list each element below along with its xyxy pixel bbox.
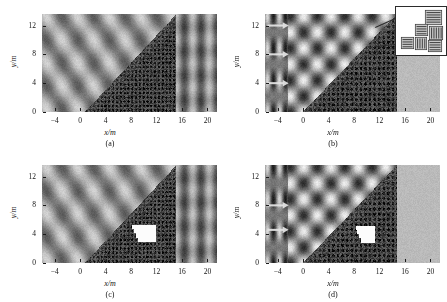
y-tick-label: 8	[241, 200, 259, 209]
x-tick-label: −4	[266, 267, 290, 276]
x-tick-mark	[182, 108, 183, 111]
x-tick-label: −4	[43, 267, 67, 276]
panel-b-magnified-inset	[395, 6, 447, 56]
y-tick-mark	[266, 205, 269, 206]
x-tick-mark	[278, 108, 279, 111]
x-tick-mark	[106, 108, 107, 111]
x-tick-mark	[380, 259, 381, 262]
x-tick-label: 16	[393, 267, 417, 276]
y-tick-label: 12	[18, 21, 36, 30]
panel-b-y-axis-label: y/m	[232, 48, 241, 76]
x-tick-label: 8	[119, 116, 143, 125]
y-tick-mark	[43, 83, 46, 84]
x-tick-mark	[303, 259, 304, 262]
x-tick-label: 0	[291, 267, 315, 276]
panel-c-x-axis-label: x/m	[92, 279, 128, 288]
x-tick-mark	[278, 259, 279, 262]
x-tick-mark	[80, 259, 81, 262]
x-tick-mark	[354, 259, 355, 262]
panel-b-caption: (b)	[315, 139, 351, 148]
x-tick-mark	[430, 108, 431, 111]
x-tick-label: −4	[266, 116, 290, 125]
panel-a-x-axis-label: x/m	[92, 128, 128, 137]
figure-container: y/m x/m (a) 04812−4048121620 y/m x/m (b)…	[0, 0, 447, 302]
y-tick-mark	[266, 26, 269, 27]
x-tick-label: −4	[43, 116, 67, 125]
x-tick-mark	[207, 259, 208, 262]
panel-a-y-axis-label: y/m	[9, 48, 18, 76]
y-tick-label: 4	[18, 229, 36, 238]
y-tick-label: 4	[241, 229, 259, 238]
panel-d-plot-area	[265, 165, 440, 263]
y-tick-label: 4	[241, 78, 259, 87]
y-tick-label: 12	[18, 172, 36, 181]
y-tick-mark	[43, 54, 46, 55]
y-tick-mark	[43, 205, 46, 206]
x-tick-label: 16	[393, 116, 417, 125]
x-tick-mark	[157, 108, 158, 111]
x-tick-label: 4	[94, 116, 118, 125]
y-tick-mark	[43, 26, 46, 27]
x-tick-mark	[354, 108, 355, 111]
x-tick-mark	[55, 108, 56, 111]
y-tick-label: 12	[241, 172, 259, 181]
panel-d-x-axis-label: x/m	[315, 279, 351, 288]
y-tick-mark	[43, 234, 46, 235]
panel-b: y/m x/m (b) 04812−4048121620	[223, 0, 447, 151]
y-tick-mark	[266, 263, 269, 264]
y-tick-label: 8	[241, 49, 259, 58]
x-tick-label: 12	[145, 116, 169, 125]
y-tick-mark	[266, 234, 269, 235]
panel-a-plot-area	[42, 14, 217, 112]
y-tick-mark	[43, 112, 46, 113]
panel-c-y-axis-label: y/m	[9, 199, 18, 227]
x-tick-label: 8	[119, 267, 143, 276]
x-tick-label: 20	[195, 267, 219, 276]
x-tick-label: 8	[342, 116, 366, 125]
x-tick-label: 4	[317, 116, 341, 125]
x-tick-label: 16	[170, 267, 194, 276]
y-tick-mark	[266, 177, 269, 178]
x-tick-mark	[182, 259, 183, 262]
y-tick-mark	[266, 112, 269, 113]
x-tick-label: 20	[418, 116, 442, 125]
panel-c-caption: (c)	[92, 290, 128, 299]
x-tick-mark	[207, 108, 208, 111]
panel-c: y/m x/m (c) 04812−4048121620	[0, 151, 223, 302]
y-tick-mark	[43, 177, 46, 178]
x-tick-mark	[303, 108, 304, 111]
x-tick-label: 12	[368, 267, 392, 276]
y-tick-label: 0	[18, 107, 36, 116]
x-tick-label: 12	[368, 116, 392, 125]
y-tick-label: 0	[241, 258, 259, 267]
x-tick-label: 4	[317, 267, 341, 276]
x-tick-mark	[329, 259, 330, 262]
x-tick-label: 0	[68, 116, 92, 125]
x-tick-mark	[106, 259, 107, 262]
x-tick-label: 20	[418, 267, 442, 276]
panel-a: y/m x/m (a) 04812−4048121620	[0, 0, 223, 151]
y-tick-label: 0	[241, 107, 259, 116]
y-tick-mark	[266, 54, 269, 55]
x-tick-label: 16	[170, 116, 194, 125]
y-tick-mark	[266, 83, 269, 84]
x-tick-mark	[329, 108, 330, 111]
y-tick-label: 12	[241, 21, 259, 30]
y-tick-label: 8	[18, 200, 36, 209]
x-tick-mark	[80, 108, 81, 111]
x-tick-label: 0	[68, 267, 92, 276]
panel-a-caption: (a)	[92, 139, 128, 148]
panel-d-y-axis-label: y/m	[232, 199, 241, 227]
panel-d: y/m x/m (d) 04812−4048121620	[223, 151, 447, 302]
y-tick-mark	[43, 263, 46, 264]
x-tick-mark	[55, 259, 56, 262]
x-tick-mark	[131, 259, 132, 262]
panel-c-plot-area	[42, 165, 217, 263]
panel-d-caption: (d)	[315, 290, 351, 299]
x-tick-mark	[157, 259, 158, 262]
x-tick-label: 0	[291, 116, 315, 125]
y-tick-label: 8	[18, 49, 36, 58]
x-tick-mark	[405, 108, 406, 111]
x-tick-label: 4	[94, 267, 118, 276]
x-tick-mark	[405, 259, 406, 262]
